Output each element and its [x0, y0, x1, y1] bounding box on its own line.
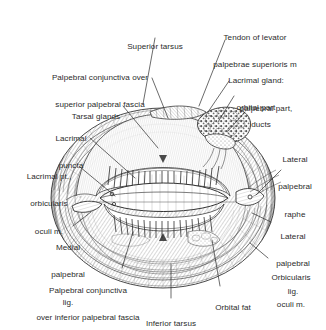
leader-orbital-fat: [212, 240, 220, 286]
leader-palpebral-conjunctiva-inferior: [122, 232, 133, 268]
label-inferior-tarsus: Inferior tarsus: [126, 300, 216, 330]
